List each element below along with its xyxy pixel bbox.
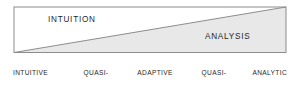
scale-label-adaptive: ADAPTIVE	[124, 58, 186, 86]
region-label-analysis: ANALYSIS	[205, 33, 250, 41]
cognitive-continuum-diagram: INTUITION ANALYSIS INTUITIVE QUASI- INTU…	[0, 0, 299, 86]
scale-label-quasi-intuitive-line1: QUASI-	[65, 68, 127, 78]
scale-label-quasi-intuitive: QUASI- INTUITIVE	[65, 58, 127, 86]
scale-label-adaptive-line1: ADAPTIVE	[124, 68, 186, 78]
scale-label-intuitive-line1: INTUITIVE	[13, 68, 73, 78]
scale-label-intuitive: INTUITIVE	[13, 58, 73, 86]
scale-label-analytic-line1: ANALYTIC	[228, 68, 287, 78]
region-label-intuition: INTUITION	[48, 16, 96, 24]
scale-label-analytic: ANALYTIC	[228, 58, 287, 86]
